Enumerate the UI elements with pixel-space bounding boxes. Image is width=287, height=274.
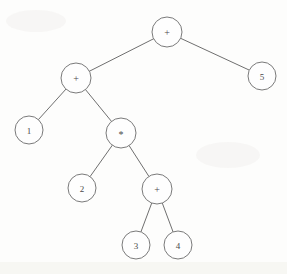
tree-node-4[interactable]: 4	[164, 231, 192, 259]
tree-edge-n1-n4	[86, 90, 112, 122]
node-label: 2	[80, 184, 85, 194]
node-label: 3	[134, 241, 139, 251]
tree-edge-n0-n2	[181, 38, 250, 70]
tree-node-plus[interactable]: +	[152, 17, 182, 47]
node-label: 5	[260, 72, 265, 82]
tree-edge-n0-n1	[89, 39, 153, 71]
expression-tree-diagram: ++51*2+34	[0, 0, 287, 274]
node-label: +	[154, 184, 160, 195]
node-label: +	[73, 73, 79, 84]
tree-edge-n6-n8	[162, 203, 173, 232]
tree-edge-n1-n3	[38, 89, 66, 119]
node-layer: ++51*2+34	[15, 17, 276, 259]
node-label: 4	[176, 241, 181, 251]
node-label: 1	[27, 126, 32, 136]
tree-node-plus[interactable]: +	[61, 63, 91, 93]
tree-node-2[interactable]: 2	[68, 174, 96, 202]
tree-node-plus[interactable]: +	[142, 174, 172, 204]
tree-node-5[interactable]: 5	[248, 62, 276, 90]
node-label: *	[119, 129, 124, 140]
tree-edge-n4-n5	[90, 145, 112, 176]
tree-node-3[interactable]: 3	[122, 231, 150, 259]
tree-node-1[interactable]: 1	[15, 116, 43, 144]
tree-canvas: ++51*2+34	[0, 0, 287, 274]
tree-edge-n6-n7	[141, 203, 152, 232]
node-label: +	[164, 27, 170, 38]
tree-edge-n4-n6	[129, 146, 149, 177]
tree-node-mul[interactable]: *	[106, 118, 136, 148]
